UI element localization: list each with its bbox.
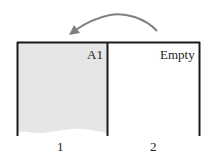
- slot-1-index-label: 1: [57, 140, 64, 153]
- arrow-head-icon: [69, 25, 80, 35]
- slot-1-content-label: A1: [87, 48, 103, 61]
- slot-2-index-label: 2: [150, 140, 157, 153]
- slot-2-content-label: Empty: [160, 48, 195, 61]
- move-arrow-icon: [74, 14, 157, 31]
- diagram-canvas: [0, 0, 211, 163]
